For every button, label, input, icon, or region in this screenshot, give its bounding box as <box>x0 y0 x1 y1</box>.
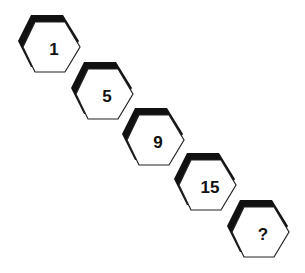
hexagon-5-unknown: ? <box>227 198 293 260</box>
question-mark: ? <box>235 210 291 260</box>
sequence-puzzle: 1 5 9 15 ? <box>0 0 305 273</box>
